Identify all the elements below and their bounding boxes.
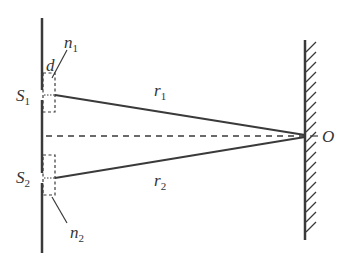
label-S1: S1 <box>16 86 30 107</box>
hatched-screen <box>305 40 316 240</box>
ray-r1 <box>55 95 305 135</box>
interference-diagram: n1 d S1 S2 n2 r1 r2 O <box>0 0 363 266</box>
ray-r2 <box>55 137 305 178</box>
label-r1: r1 <box>154 81 166 102</box>
label-n2: n2 <box>70 223 84 244</box>
label-O: O <box>322 127 334 146</box>
label-d: d <box>46 56 55 75</box>
dashed-box-n2 <box>43 155 55 195</box>
label-n1: n1 <box>64 33 78 54</box>
label-r2: r2 <box>154 171 166 192</box>
label-S2: S2 <box>16 168 30 189</box>
dashed-box-n1 <box>43 73 55 112</box>
n2-pointer <box>52 197 67 223</box>
